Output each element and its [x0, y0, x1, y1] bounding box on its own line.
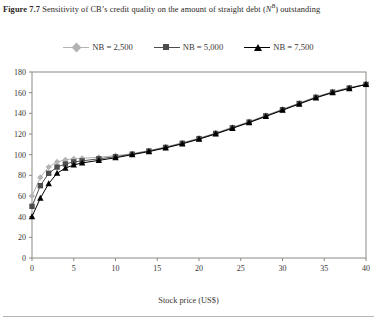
x-axis-title: Stock price (US$)	[0, 296, 377, 305]
bottom-rule	[3, 316, 374, 317]
series-triangle	[29, 81, 369, 219]
x-tick-label: 5	[72, 264, 76, 273]
y-tick-label: 140	[14, 109, 26, 118]
caption-text-after: ) outstanding	[275, 5, 320, 14]
legend-label-nb-5000: NB = 5,000	[183, 42, 223, 52]
legend-swatch-nb-2500	[63, 43, 89, 52]
y-tick-label: 180	[14, 68, 26, 77]
chart-legend: NB = 2,500 NB = 5,000 NB = 7,500	[0, 42, 377, 52]
y-tick-label: 40	[18, 213, 26, 222]
legend-label-nb-7500: NB = 7,500	[273, 42, 313, 52]
legend-item-nb-2500[interactable]: NB = 2,500	[63, 42, 132, 52]
y-tick-label: 100	[14, 151, 26, 160]
legend-item-nb-7500[interactable]: NB = 7,500	[244, 42, 313, 52]
x-tick-label: 20	[195, 264, 203, 273]
y-tick-label: 80	[18, 171, 26, 180]
series-square	[29, 82, 368, 209]
x-tick-label: 40	[362, 264, 370, 273]
y-tick-label: 120	[14, 130, 26, 139]
x-tick-label: 0	[30, 264, 34, 273]
y-tick-label: 20	[18, 233, 26, 242]
y-tick-label: 60	[18, 192, 26, 201]
figure-caption: Figure 7.7 Sensitivity of CB’s credit qu…	[3, 1, 375, 15]
caption-text-before: Sensitivity of CB’s credit quality on th…	[42, 5, 266, 14]
figure-number: Figure 7.7	[3, 5, 40, 14]
x-tick-label: 30	[279, 264, 287, 273]
line-chart-svg: 0204060801001201401601800510152025303540	[0, 62, 377, 292]
legend-item-nb-5000[interactable]: NB = 5,000	[154, 42, 223, 52]
legend-swatch-nb-7500	[244, 43, 270, 52]
x-tick-label: 10	[112, 264, 120, 273]
y-tick-label: 160	[14, 89, 26, 98]
x-tick-label: 35	[320, 264, 328, 273]
legend-label-nb-2500: NB = 2,500	[92, 42, 132, 52]
x-tick-label: 25	[237, 264, 245, 273]
y-tick-label: 0	[22, 254, 26, 263]
legend-swatch-nb-5000	[154, 43, 180, 52]
x-tick-label: 15	[153, 264, 161, 273]
chart-plot-area: 0204060801001201401601800510152025303540	[0, 62, 377, 292]
